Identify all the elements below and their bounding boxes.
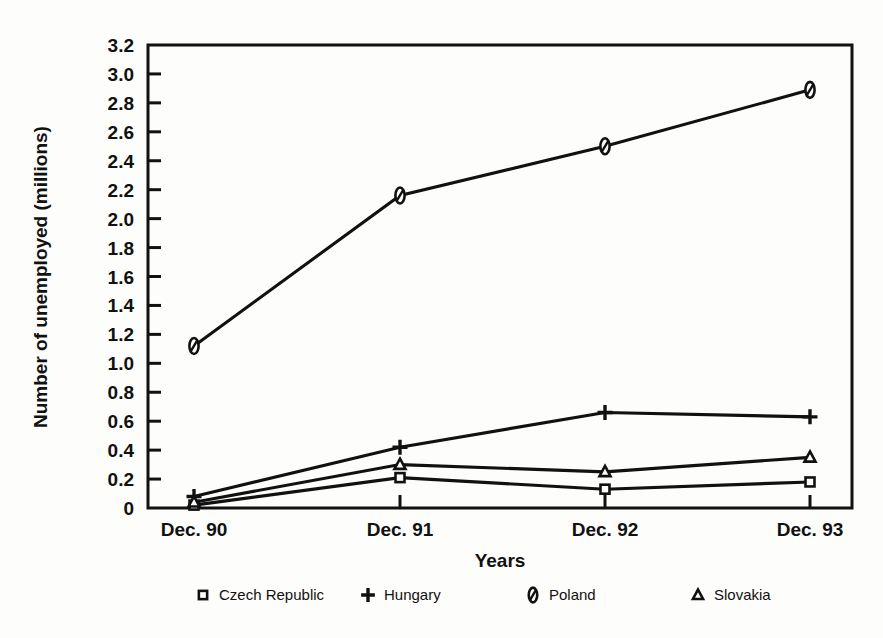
x-tick-label: Dec. 93 [777, 519, 844, 540]
y-tick-label: 1.8 [108, 238, 134, 259]
y-tick-label: 3.0 [108, 64, 134, 85]
y-tick-label: 2.2 [108, 180, 134, 201]
unemployment-line-chart: 00.20.40.60.81.01.21.41.61.82.02.22.42.6… [0, 0, 883, 638]
data-point-marker-square [806, 477, 815, 486]
data-point-marker-slashed-zero [395, 187, 404, 203]
chart-canvas: 00.20.40.60.81.01.21.41.61.82.02.22.42.6… [0, 0, 883, 638]
y-tick-label: 2.4 [108, 151, 135, 172]
y-tick-label: 1.2 [108, 324, 134, 345]
data-point-marker-square [199, 591, 207, 599]
y-tick-label: 1.4 [108, 295, 135, 316]
legend-label: Hungary [384, 586, 441, 603]
y-tick-label: 1.0 [108, 353, 134, 374]
data-point-marker-slashed-zero [805, 82, 814, 98]
y-tick-label: 2.8 [108, 93, 134, 114]
y-tick-label: 0.2 [108, 469, 134, 490]
data-point-marker-slashed-zero [529, 588, 537, 603]
y-tick-label: 0.4 [108, 440, 135, 461]
data-point-marker-square [601, 485, 610, 494]
y-tick-label: 0.8 [108, 382, 134, 403]
data-point-marker-square [396, 473, 405, 482]
y-axis-tick-labels: 00.20.40.60.81.01.21.41.61.82.02.22.42.6… [108, 35, 135, 519]
y-tick-label: 1.6 [108, 267, 134, 288]
y-tick-label: 3.2 [108, 35, 134, 56]
x-tick-label: Dec. 91 [367, 519, 434, 540]
legend-label: Czech Republic [219, 586, 325, 603]
y-axis-title: Number of unemployed (millions) [30, 126, 51, 428]
legend-label: Slovakia [714, 586, 771, 603]
y-tick-label: 2.6 [108, 122, 134, 143]
x-tick-label: Dec. 90 [161, 519, 228, 540]
y-tick-label: 0 [123, 498, 134, 519]
legend-label: Poland [549, 586, 596, 603]
x-tick-label: Dec. 92 [572, 519, 639, 540]
y-tick-label: 2.0 [108, 209, 134, 230]
y-tick-label: 0.6 [108, 411, 134, 432]
x-axis-title: Years [475, 550, 526, 571]
data-point-marker-slashed-zero [189, 338, 198, 354]
data-point-marker-slashed-zero [600, 138, 609, 154]
